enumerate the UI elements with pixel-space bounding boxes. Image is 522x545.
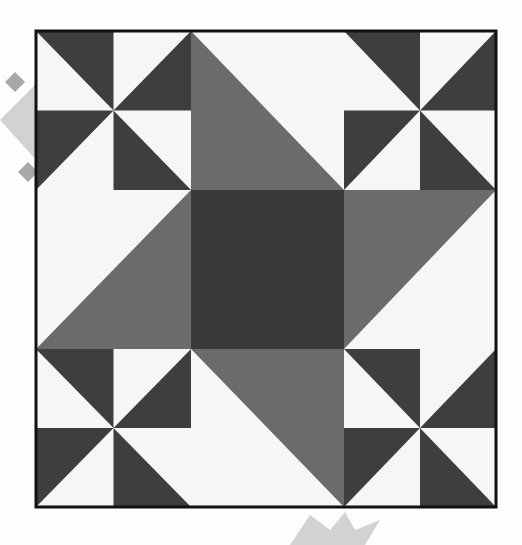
center-dark-square <box>191 190 344 349</box>
quilt-block-illustration <box>0 0 522 545</box>
quilt-block-canvas <box>0 0 522 545</box>
watermark-star <box>290 512 380 545</box>
watermark-accent-1 <box>5 72 25 92</box>
